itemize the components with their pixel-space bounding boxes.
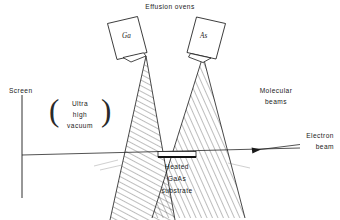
mbe-system-diagram: Effusion ovens Ga As Screen ( ) Ultra hi… [0,0,340,220]
substrate-label-line2: GaAs [145,174,209,184]
figure-title: Effusion ovens [126,2,214,12]
molecular-beams-label-line1: Molecular [244,86,308,96]
substrate-label-line3: substrate [145,186,209,196]
ga-oven-label: Ga [122,32,131,40]
substrate-label-line1: Heated [145,162,209,172]
vacuum-label-line1: Ultra [58,99,102,109]
as-oven-label: As [200,32,207,40]
electron-beam-label-line1: Electron [242,131,334,141]
vacuum-label-line3: vacuum [58,121,102,131]
molecular-beams-label-line2: beams [244,97,308,107]
screen-label: Screen [9,86,49,96]
gaas-substrate [158,152,196,158]
vacuum-label-line2: high [58,110,102,120]
vacuum-paren-close: ) [101,95,111,126]
electron-beam-label-line2: beam [242,142,334,152]
